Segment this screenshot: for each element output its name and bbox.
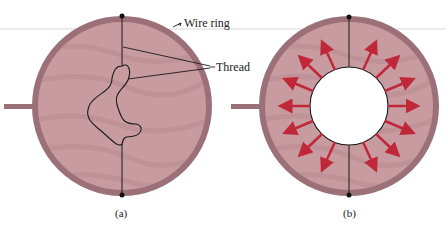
panel-a [4,14,215,198]
ring-handle-b [231,104,261,109]
wire-ring-label: Wire ring [184,17,230,29]
thread-anchor-bottom-b [347,193,352,198]
thread-anchor-top-a [120,14,125,19]
thread-anchor-top-b [347,15,352,20]
thread-anchor-bottom-a [120,193,125,198]
caption-b: (b) [343,208,356,219]
thread-circle-hole-b [310,67,388,145]
ring-handle-a [4,104,34,109]
caption-a: (a) [115,208,127,219]
thread-label: Thread [216,61,250,73]
diagram-canvas [0,0,446,226]
panel-b [231,15,440,198]
